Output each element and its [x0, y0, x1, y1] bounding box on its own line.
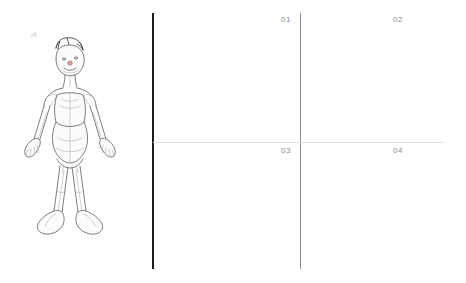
quadrant-label-01: 01 — [281, 15, 291, 24]
leg-left — [54, 166, 68, 212]
vertical-divider-thin — [300, 13, 301, 269]
humanoid-figure-sketch — [0, 0, 145, 283]
construction-marks — [32, 32, 36, 37]
leg-right — [72, 166, 86, 212]
vertical-divider-thick — [152, 13, 154, 269]
arm-left — [34, 106, 50, 139]
torso — [44, 88, 96, 172]
head-group — [56, 38, 84, 76]
foot-right — [76, 210, 103, 234]
foot-left — [37, 210, 64, 234]
nose — [68, 61, 73, 65]
neck — [63, 75, 77, 87]
hand-left — [25, 138, 41, 157]
sketch-panel — [0, 0, 145, 283]
arm-right — [90, 106, 106, 139]
head-outline — [56, 45, 84, 76]
quadrant-grid-panel: 01 02 03 04 — [145, 0, 466, 283]
worksheet-page: 01 02 03 04 — [0, 0, 466, 283]
quadrant-label-02: 02 — [393, 15, 403, 24]
horizontal-divider — [153, 142, 445, 143]
quadrant-label-03: 03 — [281, 146, 291, 155]
quadrant-label-04: 04 — [393, 146, 403, 155]
hand-right — [100, 138, 116, 157]
